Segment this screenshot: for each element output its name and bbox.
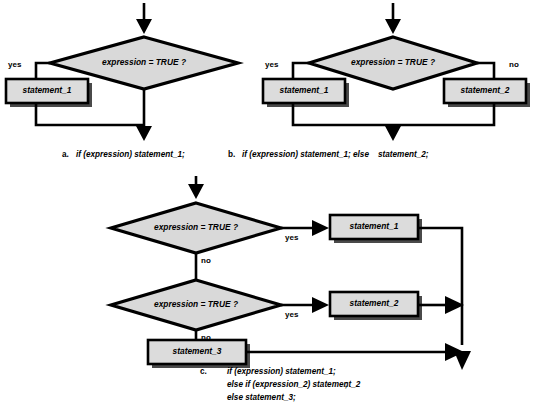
c-branch-yes-1-label: yes: [285, 233, 299, 242]
panel-a-yes-path: [36, 63, 50, 79]
c-decision-1: expression = TRUE ?: [111, 203, 281, 253]
panel-c-caption-line-1: if (expression) statement_1;: [227, 367, 336, 376]
b-statement-1: statement_1: [263, 79, 349, 107]
panel-b-caption-line-2: statement_2;: [378, 150, 429, 159]
panel-c-merge-path-2: [418, 296, 464, 314]
panel-a-caption-line-1: if (expression) statement_1;: [76, 150, 185, 159]
b-branch-no-label: no: [509, 60, 519, 69]
panel-b-yes-path: [293, 63, 309, 79]
a-statement-1-label: statement_1: [23, 85, 72, 95]
flowchart-figure: expression = TRUE ? yes statement_1: [0, 0, 537, 414]
panel-b: expression = TRUE ? yes no statement_1: [228, 3, 530, 159]
a-statement-1: statement_1: [6, 79, 92, 107]
panel-b-caption-line-1: if (expression) statement_1; else: [242, 150, 369, 159]
panel-a-exit-arrow: [136, 89, 152, 141]
panel-c-caption: c. if (expression) statement_1; else if …: [200, 367, 361, 402]
c-statement-2-label: statement_2: [350, 298, 399, 308]
panel-c-marker: c.: [200, 367, 207, 376]
panel-b-caption: b. if (expression) statement_1; else sta…: [228, 150, 429, 159]
panel-b-entry-arrow: [385, 3, 401, 34]
a-decision-1-label: expression = TRUE ?: [102, 57, 186, 67]
panel-c-entry-arrow: [188, 176, 204, 199]
panel-c: expression = TRUE ? yes statement_1 no: [111, 176, 471, 402]
panel-c-caption-line-3: else statement_3;: [227, 393, 296, 402]
b-statement-2-label: statement_2: [461, 85, 510, 95]
c-statement-1: statement_1: [330, 215, 422, 243]
c-decision-1-label: expression = TRUE ?: [154, 222, 238, 232]
panel-b-exit-arrow: [385, 124, 401, 141]
c-decision-2-label: expression = TRUE ?: [154, 299, 238, 309]
panel-a: expression = TRUE ? yes statement_1: [6, 3, 238, 159]
c-statement-2: statement_2: [330, 292, 422, 320]
panel-a-caption: a. if (expression) statement_1;: [62, 150, 185, 159]
panel-b-marker: b.: [228, 150, 235, 159]
c-branch-no-1-label: no: [201, 256, 211, 265]
panel-c-caption-line-2: else if (expression_2) statement_2: [227, 380, 361, 389]
panel-b-no-path: [477, 63, 494, 79]
b-decision-1-label: expression = TRUE ?: [351, 57, 435, 67]
panel-c-caption-line-2-trailing: ;: [345, 380, 348, 389]
b-branch-yes-label: yes: [265, 60, 279, 69]
c-statement-1-label: statement_1: [350, 221, 399, 231]
a-branch-yes-label: yes: [8, 60, 22, 69]
panel-c-exit-arrow: [454, 351, 471, 370]
panel-a-entry-arrow: [136, 3, 152, 34]
panel-a-marker: a.: [62, 150, 69, 159]
panel-c-merge-path-1: [418, 228, 462, 345]
c-statement-3-label: statement_3: [173, 346, 222, 356]
c-decision-2: expression = TRUE ?: [111, 280, 281, 330]
panel-c-merge-path-3: [246, 343, 464, 361]
c-branch-yes-2-label: yes: [285, 310, 299, 319]
b-statement-1-label: statement_1: [280, 85, 329, 95]
c-statement-3: statement_3: [148, 340, 250, 368]
b-statement-2: statement_2: [444, 79, 530, 107]
